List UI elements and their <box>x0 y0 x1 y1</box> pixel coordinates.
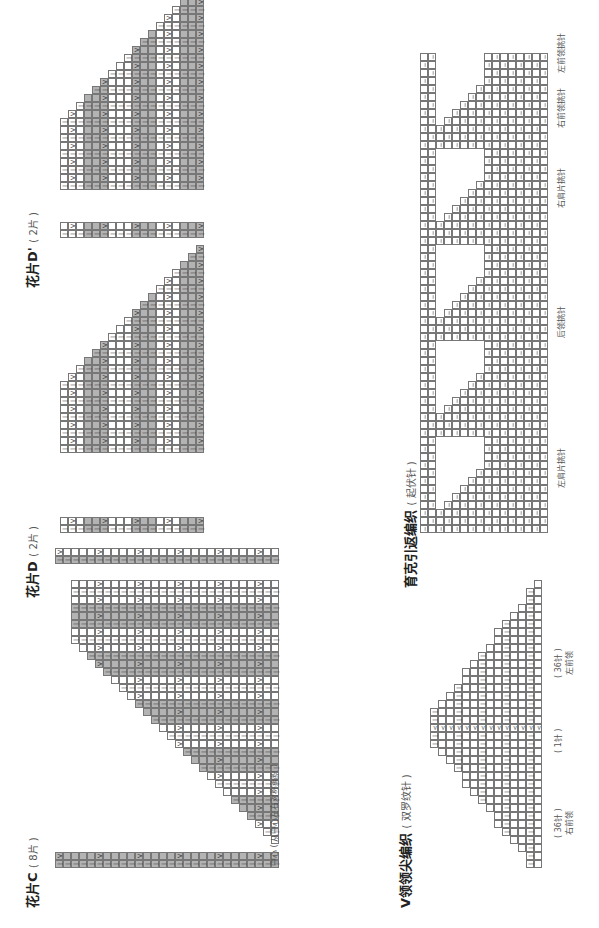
chart-cell <box>159 812 167 820</box>
chart-cell <box>124 517 132 525</box>
chart-cell: | <box>100 102 108 110</box>
chart-cell <box>84 373 92 381</box>
chart-cell <box>180 453 188 461</box>
piece-d-title: 花片D ( 2片 ) <box>22 526 41 598</box>
chart-cell: V <box>68 517 76 525</box>
chart-cell: | <box>196 445 204 453</box>
chart-cell <box>79 820 87 828</box>
chart-cell <box>508 413 516 421</box>
chart-cell: | <box>502 828 510 836</box>
chart-cell <box>175 836 183 844</box>
chart-cell <box>534 740 542 748</box>
chart-cell <box>444 237 452 245</box>
chart-cell: | <box>207 604 215 612</box>
chart-cell <box>540 349 548 357</box>
chart-cell <box>108 517 116 525</box>
chart-cell: | <box>247 796 255 804</box>
chart-cell <box>494 812 502 820</box>
chart-cell: V <box>215 740 223 748</box>
chart-cell: − <box>468 125 476 133</box>
chart-cell <box>103 692 111 700</box>
chart-cell: − <box>524 53 532 61</box>
chart-cell <box>84 461 92 469</box>
chart-cell <box>468 85 476 93</box>
chart-cell <box>188 30 196 38</box>
chart-cell <box>436 445 444 453</box>
chart-cell <box>444 525 452 533</box>
chart-cell: − <box>508 389 516 397</box>
chart-cell <box>263 644 271 652</box>
chart-cell <box>79 796 87 804</box>
chart-cell <box>452 85 460 93</box>
chart-cell: | <box>119 588 127 596</box>
chart-cell: − <box>492 69 500 77</box>
chart-cell <box>196 190 204 198</box>
chart-cell: | <box>143 684 151 692</box>
chart-cell <box>508 429 516 437</box>
v-neck-title: V领领尖编织 ( 双罗纹针 ) <box>395 774 414 908</box>
chart-cell: | <box>124 349 132 357</box>
chart-cell <box>63 852 71 860</box>
chart-cell <box>76 30 84 38</box>
chart-cell <box>79 668 87 676</box>
chart-cell: V <box>95 580 103 588</box>
chart-cell <box>540 477 548 485</box>
chart-cell <box>92 357 100 365</box>
chart-cell: V <box>68 373 76 381</box>
chart-cell <box>532 309 540 317</box>
chart-cell <box>436 373 444 381</box>
chart-cell: | <box>223 748 231 756</box>
chart-cell <box>468 269 476 277</box>
chart-cell: | <box>76 134 84 142</box>
chart-cell <box>420 373 428 381</box>
chart-cell: | <box>526 604 534 612</box>
chart-cell <box>108 373 116 381</box>
chart-cell <box>468 365 476 373</box>
chart-cell: | <box>526 732 534 740</box>
chart-cell <box>60 293 68 301</box>
chart-cell: | <box>526 804 534 812</box>
chart-cell <box>164 190 172 198</box>
chart-cell <box>215 828 223 836</box>
chart-cell <box>76 437 84 445</box>
chart-cell <box>516 53 524 61</box>
chart-cell: V <box>135 580 143 588</box>
chart-cell <box>156 277 164 285</box>
chart-cell: V <box>215 708 223 716</box>
chart-cell <box>68 453 76 461</box>
chart-cell <box>124 110 132 118</box>
chart-cell <box>95 676 103 684</box>
chart-cell: − <box>532 333 540 341</box>
chart-cell: V <box>164 46 172 54</box>
chart-cell <box>508 397 516 405</box>
chart-cell: | <box>119 620 127 628</box>
chart-cell <box>494 764 502 772</box>
chart-cell <box>175 756 183 764</box>
chart-cell: | <box>502 716 510 724</box>
chart-cell <box>55 604 63 612</box>
chart-cell <box>438 708 446 716</box>
chart-cell: | <box>180 269 188 277</box>
chart-cell <box>183 796 191 804</box>
chart-cell: | <box>148 445 156 453</box>
chart-cell <box>468 517 476 525</box>
chart-cell: − <box>508 133 516 141</box>
chart-cell <box>430 692 438 700</box>
chart-cell <box>468 501 476 509</box>
chart-cell <box>476 509 484 517</box>
chart-cell <box>524 93 532 101</box>
chart-cell: − <box>452 429 460 437</box>
chart-cell <box>444 493 452 501</box>
chart-cell <box>231 644 239 652</box>
chart-cell <box>476 437 484 445</box>
chart-cell <box>140 261 148 269</box>
chart-cell: | <box>196 381 204 389</box>
chart-cell: − <box>500 333 508 341</box>
chart-cell <box>462 636 470 644</box>
chart-cell: | <box>526 820 534 828</box>
chart-cell <box>119 780 127 788</box>
chart-cell <box>108 6 116 14</box>
chart-cell <box>239 812 247 820</box>
chart-cell: V <box>132 94 140 102</box>
chart-cell <box>100 261 108 269</box>
